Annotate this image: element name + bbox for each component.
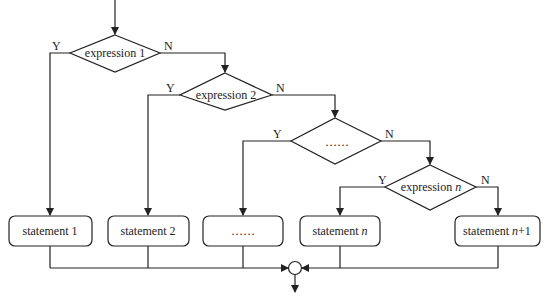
- edge-d2-yes: [148, 95, 180, 215]
- flowchart-svg: expression 1 Y N expression 2 Y N …… Y N…: [0, 0, 551, 304]
- decision-3-label: ……: [325, 135, 349, 149]
- d4-no-label: N: [481, 173, 490, 187]
- d2-no-label: N: [276, 81, 285, 95]
- d4-yes-label: Y: [378, 173, 387, 187]
- decision-expression-2: expression 2: [180, 73, 272, 110]
- statement-ellipsis-box: ……: [203, 216, 283, 246]
- d1-yes-label: Y: [52, 39, 61, 53]
- edge-d4-no: [476, 187, 498, 215]
- decision-expression-n: expression n: [385, 165, 476, 210]
- statement-n-plus-1-box: statement n+1: [455, 216, 540, 246]
- d3-no-label: N: [385, 127, 394, 141]
- edge-d3-yes: [243, 141, 291, 215]
- statement-1-label: statement 1: [23, 224, 78, 238]
- join-connector: [289, 262, 302, 275]
- edge-d2-no: [272, 95, 335, 117]
- edge-d4-yes: [340, 187, 385, 215]
- statement-n-label: statement n: [313, 224, 368, 238]
- statement-1-box: statement 1: [9, 216, 92, 246]
- decision-4-label: expression n: [401, 180, 461, 194]
- decision-ellipsis: ……: [291, 118, 381, 164]
- statement-2-box: statement 2: [108, 216, 189, 246]
- statement-n-plus-1-label: statement n+1: [463, 224, 531, 238]
- edge-d3-no: [381, 141, 430, 164]
- decision-1-label: expression 1: [85, 46, 145, 60]
- d2-yes-label: Y: [166, 81, 175, 95]
- statement-3-label: ……: [231, 224, 255, 238]
- statement-n-box: statement n: [300, 216, 380, 246]
- edge-d1-yes: [50, 53, 70, 215]
- edge-d1-no: [160, 53, 225, 72]
- decision-expression-1: expression 1: [70, 35, 160, 72]
- d3-yes-label: Y: [273, 127, 282, 141]
- statement-2-label: statement 2: [121, 224, 176, 238]
- decision-2-label: expression 2: [196, 88, 256, 102]
- flowchart-canvas: expression 1 Y N expression 2 Y N …… Y N…: [0, 0, 551, 304]
- d1-no-label: N: [164, 39, 173, 53]
